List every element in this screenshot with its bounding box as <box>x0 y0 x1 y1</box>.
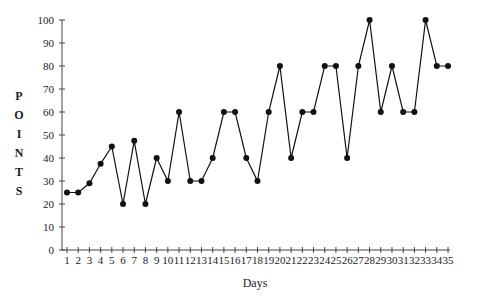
data-point <box>243 155 249 161</box>
x-tick-label: 6 <box>120 254 126 266</box>
x-tick-label: 4 <box>98 254 104 266</box>
x-tick-label: 12 <box>185 254 196 266</box>
x-tick-label: 18 <box>252 254 264 266</box>
y-tick-label: 90 <box>43 37 55 49</box>
x-tick-label: 24 <box>319 254 331 266</box>
y-tick-label: 20 <box>43 198 55 210</box>
data-point <box>333 63 339 69</box>
y-axis-ticks: 0102030405060708090100 <box>38 14 66 256</box>
data-point <box>355 63 361 69</box>
data-point <box>210 155 216 161</box>
data-point <box>266 109 272 115</box>
data-point <box>322 63 328 69</box>
x-tick-label: 5 <box>109 254 115 266</box>
data-point <box>109 144 115 150</box>
x-tick-label: 22 <box>297 254 308 266</box>
data-point <box>176 109 182 115</box>
data-line <box>67 20 448 204</box>
data-point <box>142 201 148 207</box>
data-point <box>187 178 193 184</box>
x-tick-label: 26 <box>342 254 354 266</box>
data-point <box>434 63 440 69</box>
x-tick-label: 25 <box>330 254 342 266</box>
y-tick-label: 100 <box>38 14 55 26</box>
data-point <box>165 178 171 184</box>
svg-text:T: T <box>15 165 23 179</box>
x-tick-label: 2 <box>75 254 81 266</box>
data-point <box>75 190 81 196</box>
data-point <box>232 109 238 115</box>
data-point <box>131 138 137 144</box>
x-tick-label: 35 <box>443 254 455 266</box>
x-tick-label: 9 <box>154 254 160 266</box>
data-point <box>311 109 317 115</box>
svg-text:S: S <box>16 184 23 198</box>
y-tick-label: 50 <box>43 129 55 141</box>
data-point <box>98 161 104 167</box>
data-point <box>86 180 92 186</box>
x-tick-label: 27 <box>353 254 365 266</box>
x-tick-label: 23 <box>308 254 320 266</box>
x-tick-label: 15 <box>218 254 230 266</box>
svg-text:I: I <box>17 127 22 141</box>
data-point <box>378 109 384 115</box>
x-tick-label: 32 <box>409 254 420 266</box>
data-point <box>367 17 373 23</box>
svg-text:O: O <box>14 108 23 122</box>
y-tick-label: 30 <box>43 175 55 187</box>
line-chart: 0102030405060708090100 12345678910111213… <box>0 0 477 302</box>
data-point <box>445 63 451 69</box>
x-tick-label: 17 <box>241 254 253 266</box>
data-point <box>64 190 70 196</box>
x-tick-label: 10 <box>162 254 174 266</box>
x-tick-label: 13 <box>196 254 208 266</box>
x-tick-label: 16 <box>230 254 242 266</box>
x-tick-label: 8 <box>143 254 149 266</box>
x-tick-label: 33 <box>420 254 432 266</box>
axes <box>62 20 450 250</box>
x-tick-label: 1 <box>64 254 70 266</box>
x-tick-label: 3 <box>87 254 93 266</box>
x-tick-label: 30 <box>386 254 398 266</box>
data-point <box>198 178 204 184</box>
x-axis-label: Days <box>243 276 268 290</box>
data-point <box>411 109 417 115</box>
x-tick-label: 31 <box>398 254 409 266</box>
x-tick-label: 20 <box>274 254 286 266</box>
x-tick-label: 19 <box>263 254 275 266</box>
x-tick-label: 7 <box>131 254 137 266</box>
data-point <box>288 155 294 161</box>
data-point <box>344 155 350 161</box>
y-tick-label: 40 <box>43 152 55 164</box>
data-markers <box>64 17 451 207</box>
data-point <box>255 178 261 184</box>
x-tick-label: 28 <box>364 254 376 266</box>
data-point <box>277 63 283 69</box>
data-point <box>221 109 227 115</box>
y-tick-label: 70 <box>43 83 55 95</box>
data-point <box>120 201 126 207</box>
y-tick-label: 10 <box>43 221 55 233</box>
y-axis-label: POINTS <box>14 89 23 198</box>
y-tick-label: 0 <box>49 244 55 256</box>
y-tick-label: 80 <box>43 60 55 72</box>
data-point <box>389 63 395 69</box>
x-tick-label: 29 <box>375 254 387 266</box>
data-point <box>154 155 160 161</box>
x-tick-label: 11 <box>174 254 185 266</box>
data-point <box>423 17 429 23</box>
data-point <box>299 109 305 115</box>
data-point <box>400 109 406 115</box>
x-tick-label: 14 <box>207 254 219 266</box>
svg-text:N: N <box>15 146 24 160</box>
x-tick-label: 34 <box>431 254 443 266</box>
x-tick-label: 21 <box>286 254 297 266</box>
svg-text:P: P <box>15 89 22 103</box>
y-tick-label: 60 <box>43 106 55 118</box>
